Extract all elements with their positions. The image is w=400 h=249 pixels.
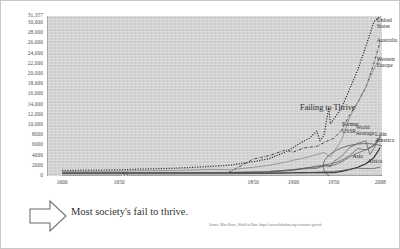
y-axis-tick: 30,000: [28, 20, 43, 25]
x-axis-tick: 1950: [328, 179, 339, 186]
chart-container: 31,35730,00028,00026,00024,00022,00020,0…: [9, 11, 393, 191]
y-axis-tick: 26,000: [28, 41, 43, 46]
y-axis-tick: 8000: [32, 133, 43, 138]
y-axis-tick: 16,000: [28, 92, 43, 97]
x-axis-tick: 1850: [248, 179, 259, 186]
source-citation: Source: Max Roser, World in Data. https:…: [209, 223, 322, 228]
series-label: World Average: [356, 124, 375, 136]
y-axis-tick: 0: [40, 173, 43, 178]
failing-to-thrive-annotation: Failing to Thrive: [300, 103, 355, 112]
y-axis-tick: 6000: [32, 143, 43, 148]
y-axis-tick: 10,000: [28, 122, 43, 127]
caption-row: Most society's fail to thrive. Source: M…: [1, 193, 400, 249]
y-axis-tick: 24,000: [28, 51, 43, 56]
y-axis-tick: 31,357: [28, 13, 43, 18]
series-label: Western Europe: [377, 56, 395, 68]
y-axis: 31,35730,00028,00026,00024,00022,00020,0…: [9, 16, 45, 176]
y-axis-tick: 14,000: [28, 102, 43, 107]
series-label: Africa: [368, 158, 382, 164]
y-axis-tick: 20,000: [28, 71, 43, 76]
chart-series-layer: [47, 16, 382, 176]
y-axis-tick: 2000: [32, 163, 43, 168]
series-label: Australia: [377, 37, 398, 43]
y-axis-tick: 4000: [32, 153, 43, 158]
x-axis-tick: 2008: [375, 179, 386, 186]
x-axis-tick: 1900: [288, 179, 299, 186]
y-axis-tick: 22,000: [28, 61, 43, 66]
x-axis: 160016501850190019502008: [47, 179, 382, 191]
series-label: United States: [377, 17, 392, 29]
series-line: [62, 137, 380, 173]
series-label: Latin America: [375, 131, 394, 143]
x-axis-tick: 1600: [56, 179, 67, 186]
caption-text: Most society's fail to thrive.: [71, 205, 188, 218]
series-line: [62, 16, 380, 170]
right-arrow-icon: [28, 199, 68, 233]
series-line: [62, 57, 380, 171]
y-axis-tick: 12,000: [28, 112, 43, 117]
series-label: Asia: [353, 153, 363, 159]
y-axis-tick: 18,000: [28, 81, 43, 86]
slide-canvas: 31,35730,00028,00026,00024,00022,00020,0…: [0, 0, 400, 249]
x-axis-tick: 1650: [113, 179, 124, 186]
y-axis-tick: 28,000: [28, 30, 43, 35]
